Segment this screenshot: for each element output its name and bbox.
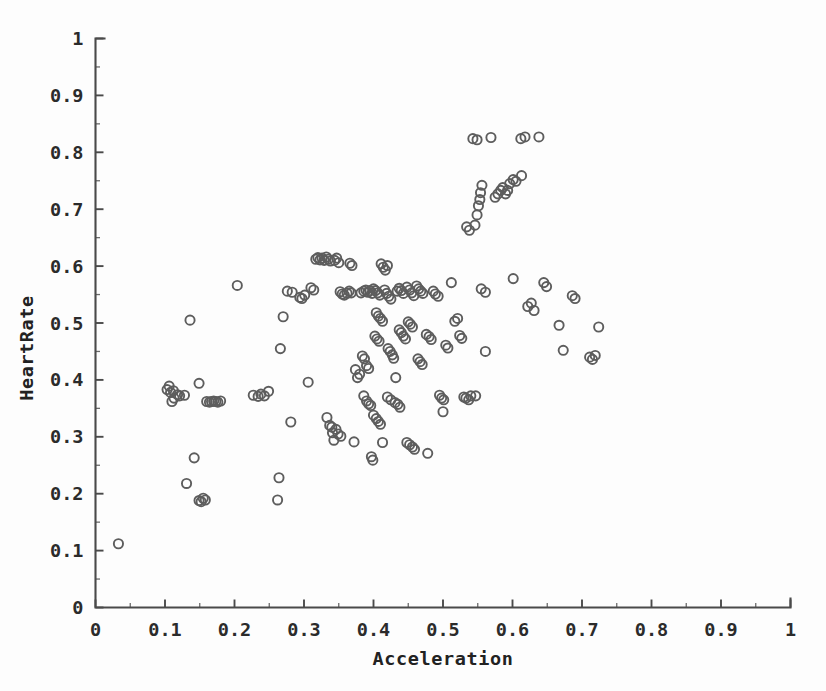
data-point bbox=[114, 539, 123, 548]
scatter-plot-figure: 00.10.20.30.40.50.60.70.80.91 00.10.20.3… bbox=[0, 0, 826, 691]
data-point bbox=[182, 479, 191, 488]
data-point bbox=[304, 378, 313, 387]
x-axis-tick-marks bbox=[96, 600, 791, 608]
data-point-series bbox=[114, 132, 603, 548]
data-point bbox=[185, 316, 194, 325]
x-tick-label: 0 bbox=[90, 619, 101, 640]
data-point bbox=[443, 343, 452, 352]
data-point bbox=[594, 322, 603, 331]
data-point bbox=[276, 344, 285, 353]
x-tick-label: 1 bbox=[785, 619, 796, 640]
data-point bbox=[279, 312, 288, 321]
y-tick-label: 0.6 bbox=[50, 256, 83, 277]
data-point bbox=[349, 437, 358, 446]
y-tick-label: 0.4 bbox=[50, 369, 83, 390]
data-point bbox=[481, 347, 490, 356]
x-axis-title: Acceleration bbox=[373, 648, 514, 669]
data-point bbox=[472, 210, 481, 219]
y-tick-label: 0.9 bbox=[50, 85, 83, 106]
y-tick-label: 0.8 bbox=[50, 142, 83, 163]
data-point bbox=[423, 449, 432, 458]
data-point bbox=[194, 379, 203, 388]
data-point bbox=[273, 495, 282, 504]
data-point bbox=[534, 132, 543, 141]
y-tick-label: 0.2 bbox=[50, 483, 83, 504]
y-tick-label: 0.1 bbox=[50, 540, 83, 561]
y-tick-label: 0.7 bbox=[50, 199, 83, 220]
y-tick-label: 1 bbox=[72, 28, 83, 49]
y-axis-tick-marks bbox=[96, 39, 104, 608]
y-axis-title: HeartRate bbox=[16, 295, 37, 401]
y-tick-label: 0.5 bbox=[50, 313, 83, 334]
axis-frame bbox=[96, 39, 791, 608]
data-point bbox=[378, 438, 387, 447]
x-tick-label: 0.4 bbox=[357, 619, 390, 640]
x-tick-label: 0.5 bbox=[426, 619, 459, 640]
y-tick-label: 0.3 bbox=[50, 426, 83, 447]
x-tick-label: 0.1 bbox=[148, 619, 181, 640]
data-point bbox=[286, 417, 295, 426]
y-tick-label: 0 bbox=[72, 597, 83, 618]
data-point bbox=[486, 133, 495, 142]
x-tick-label: 0.9 bbox=[704, 619, 737, 640]
plot-canvas: 00.10.20.30.40.50.60.70.80.91 00.10.20.3… bbox=[0, 0, 826, 691]
data-point bbox=[559, 346, 568, 355]
x-tick-label: 0.8 bbox=[635, 619, 668, 640]
y-axis-tick-labels: 00.10.20.30.40.50.60.70.80.91 bbox=[50, 28, 83, 618]
data-point bbox=[233, 281, 242, 290]
data-point bbox=[190, 453, 199, 462]
data-point bbox=[309, 285, 318, 294]
x-tick-label: 0.6 bbox=[496, 619, 529, 640]
data-point bbox=[347, 261, 356, 270]
x-tick-label: 0.7 bbox=[565, 619, 598, 640]
data-point bbox=[457, 334, 466, 343]
data-point bbox=[554, 321, 563, 330]
x-tick-label: 0.3 bbox=[287, 619, 320, 640]
data-point bbox=[517, 171, 526, 180]
data-point bbox=[438, 407, 447, 416]
data-point bbox=[447, 278, 456, 287]
data-point bbox=[509, 274, 518, 283]
data-point bbox=[274, 473, 283, 482]
data-point bbox=[364, 364, 373, 373]
x-tick-label: 0.2 bbox=[218, 619, 251, 640]
data-point bbox=[391, 373, 400, 382]
x-axis-tick-labels: 00.10.20.30.40.50.60.70.80.91 bbox=[90, 619, 796, 640]
